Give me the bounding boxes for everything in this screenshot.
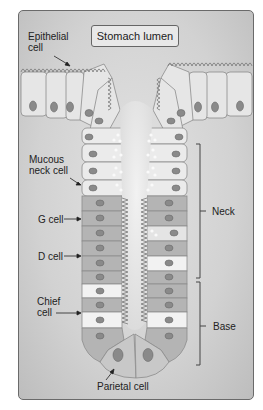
gland-right-column xyxy=(143,128,187,362)
g-cell-label: G cell xyxy=(38,214,64,225)
region-brackets xyxy=(196,144,206,365)
parietal-cell-label: Parietal cell xyxy=(97,381,149,392)
neck-region-label: Neck xyxy=(212,206,235,217)
surface-epithelium-left xyxy=(21,64,120,132)
chief-cell-label: Chief cell xyxy=(37,296,60,318)
d-cell-label: D cell xyxy=(38,251,63,262)
gastric-gland-illustration xyxy=(0,0,263,410)
gland-left-column xyxy=(82,128,126,362)
base-region-label: Base xyxy=(213,321,236,332)
epithelial-cell-label: Epithelial cell xyxy=(28,31,69,53)
stomach-lumen-label: Stomach lumen xyxy=(91,25,179,47)
mucous-neck-cell-label: Mucous neck cell xyxy=(29,154,68,176)
